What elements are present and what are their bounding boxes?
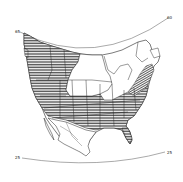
island-west	[24, 48, 28, 58]
latitude-arc-south	[22, 152, 165, 163]
range-map	[0, 0, 183, 182]
latitude-label-top-left: 65	[15, 30, 20, 34]
latitude-label-top-right: 60	[167, 16, 172, 20]
latitude-label-bottom-left: 25	[15, 156, 20, 160]
florida	[122, 128, 132, 144]
latitude-label-bottom-right: 25	[167, 151, 172, 155]
